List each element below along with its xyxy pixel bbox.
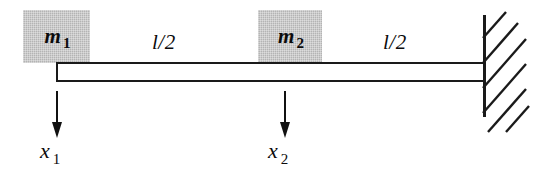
mass-symbol-m2: m [278,24,294,48]
displacement-label-x1: x1 [40,138,57,164]
displacement-arrow-x2 [276,88,298,140]
length-label-segment-1: l/2 [152,30,176,55]
displacement-symbol-x2: x [268,138,278,163]
displacement-symbol-x1: x [40,138,50,163]
mass-label-m2: m2 [258,24,322,49]
displacement-arrow-x1 [48,88,70,140]
displacement-subscript-x1: 1 [53,151,61,167]
mass-block-m1: m1 [23,10,90,63]
beam [56,62,486,82]
mass-subscript-m1: 1 [63,35,71,51]
mass-subscript-m2: 2 [296,35,304,51]
mass-symbol-m1: m [45,24,61,48]
mass-label-m1: m1 [23,24,90,49]
figure-canvas: m1 m2 l/2 l/2 x1 x2 [0,0,534,177]
wall-hatch-icon [484,8,534,128]
length-label-segment-2: l/2 [383,30,407,55]
displacement-subscript-x2: 2 [281,151,289,167]
mass-block-m2: m2 [258,10,322,63]
displacement-label-x2: x2 [268,138,285,164]
